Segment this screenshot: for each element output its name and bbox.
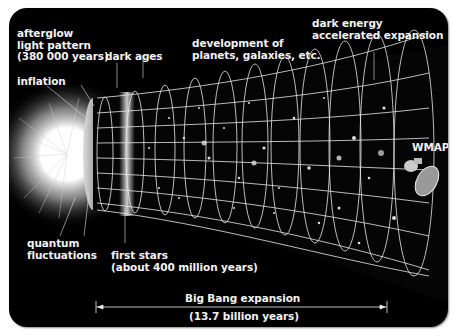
- label-age-of-universe: (13.7 billion years): [189, 311, 299, 323]
- label-dark-ages: dark ages: [105, 51, 163, 63]
- label-quantum-fluctuations: quantum fluctuations: [27, 238, 97, 261]
- label-dark-energy: dark energy accelerated expansion: [312, 18, 443, 41]
- label-wmap: WMAP: [412, 142, 448, 154]
- label-development: development of planets, galaxies, etc.: [192, 38, 320, 61]
- label-afterglow: afterglow light pattern (380 000 years): [17, 28, 109, 63]
- universe-timeline-diagram: afterglow light pattern (380 000 years) …: [9, 8, 448, 327]
- label-big-bang-expansion: Big Bang expansion: [185, 293, 300, 305]
- label-inflation: inflation: [17, 76, 66, 88]
- label-first-stars: first stars (about 400 million years): [111, 250, 258, 273]
